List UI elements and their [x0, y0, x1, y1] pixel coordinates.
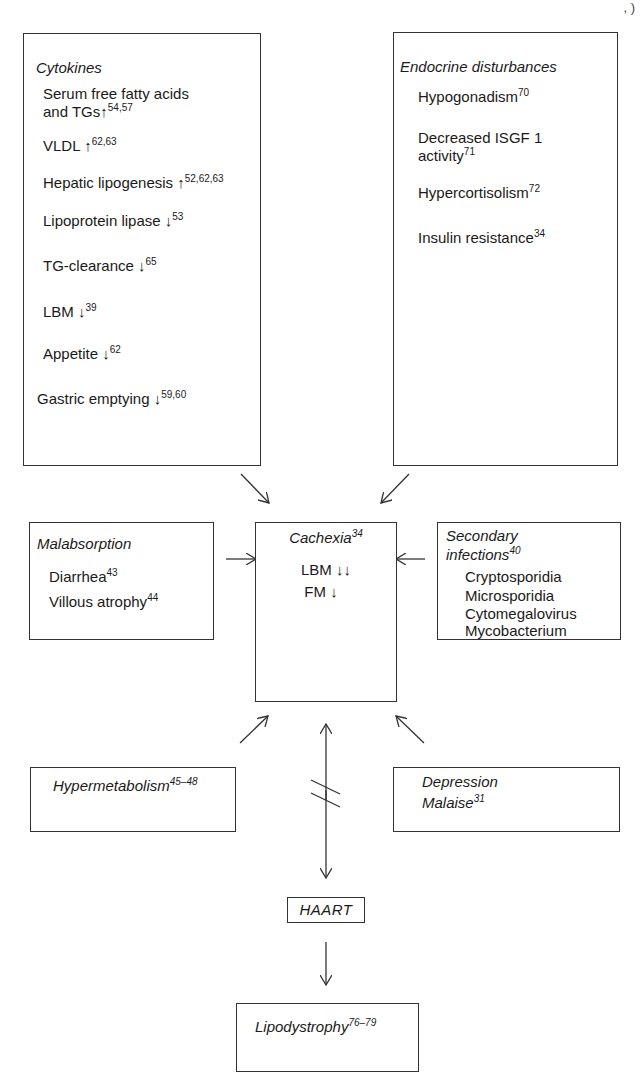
- secondary-infections-title: Secondary infections40: [446, 526, 521, 564]
- depression-box: Depression Malaise31: [393, 767, 620, 832]
- cachexia-box: Cachexia34 LBM ↓↓ FM ↓: [255, 522, 397, 702]
- depression-title: Depression Malaise31: [422, 771, 498, 813]
- cytokine-item-ffa: Serum free fatty acids and TGs↑54,57: [43, 85, 189, 121]
- cytokine-item-appetite: Appetite ↓62: [43, 345, 121, 363]
- arrow-endocrine-to-cachexia: [381, 474, 409, 503]
- down-arrow-icon: ↓: [78, 303, 86, 320]
- down-arrow-icon: ↓: [102, 345, 110, 362]
- cytokine-item-vldl: VLDL ↑62,63: [43, 137, 117, 155]
- cytokine-item-lipoprotein-lipase: Lipoprotein lipase ↓53: [43, 212, 183, 230]
- cytokine-item-hepatic-lipogenesis: Hepatic lipogenesis ↑52,62,63: [43, 174, 224, 192]
- lipodystrophy-box: Lipodystrophy76–79: [236, 1003, 419, 1072]
- endocrine-box: Endocrine disturbances Hypogonadism70 De…: [393, 32, 618, 466]
- arrow-hypermetabolism-to-cachexia: [240, 716, 268, 743]
- cachexia-title: Cachexia34: [256, 529, 396, 546]
- haart-title: HAART: [288, 901, 364, 918]
- malabsorption-title: Malabsorption: [37, 535, 131, 552]
- cachexia-item-lbm: LBM ↓↓: [256, 561, 396, 579]
- infection-item-mycobacterium: Mycobacterium: [465, 622, 567, 640]
- haart-box: HAART: [287, 897, 365, 923]
- lipodystrophy-title: Lipodystrophy76–79: [255, 1018, 376, 1035]
- malabsorption-box: Malabsorption Diarrhea43 Villous atrophy…: [29, 522, 214, 640]
- endocrine-item-hypercortisolism: Hypercortisolism72: [418, 184, 540, 202]
- cytokine-item-lbm: LBM ↓39: [43, 303, 97, 321]
- cytokines-title: Cytokines: [36, 59, 102, 76]
- cytokine-item-gastric-emptying: Gastric emptying ↓59,60: [37, 390, 186, 408]
- secondary-infections-box: Secondary infections40 Cryptosporidia Mi…: [437, 522, 621, 640]
- infection-item-microsporidia: Microsporidia: [465, 587, 554, 605]
- hypermetabolism-box: Hypermetabolism45–48: [30, 767, 236, 832]
- hypermetabolism-title: Hypermetabolism45–48: [53, 777, 198, 794]
- arrow-depression-to-cachexia: [396, 716, 424, 743]
- cytokines-box: Cytokines Serum free fatty acids and TGs…: [23, 33, 261, 466]
- cachexia-item-fm: FM ↓: [256, 583, 396, 601]
- endocrine-item-hypogonadism: Hypogonadism70: [418, 88, 529, 106]
- double-down-arrow-icon: ↓↓: [336, 561, 351, 578]
- cytokine-item-tg-clearance: TG-clearance ↓65: [43, 257, 157, 275]
- malabsorption-item-diarrhea: Diarrhea43: [49, 568, 118, 586]
- malabsorption-item-villous-atrophy: Villous atrophy44: [49, 593, 158, 611]
- up-arrow-icon: ↑: [84, 137, 92, 154]
- endocrine-item-isgf: Decreased ISGF 1 activity71: [418, 129, 542, 165]
- up-arrow-icon: ↑: [100, 103, 108, 120]
- endocrine-title: Endocrine disturbances: [400, 58, 557, 75]
- infection-item-cryptosporidia: Cryptosporidia: [465, 568, 562, 586]
- infection-item-cytomegalovirus: Cytomegalovirus: [465, 605, 577, 623]
- down-arrow-icon: ↓: [330, 583, 338, 600]
- endocrine-item-insulin-resistance: Insulin resistance34: [418, 229, 545, 247]
- down-arrow-icon: ↓: [138, 257, 146, 274]
- arrow-cytokines-to-cachexia: [241, 474, 269, 503]
- up-arrow-icon: ↑: [177, 174, 185, 191]
